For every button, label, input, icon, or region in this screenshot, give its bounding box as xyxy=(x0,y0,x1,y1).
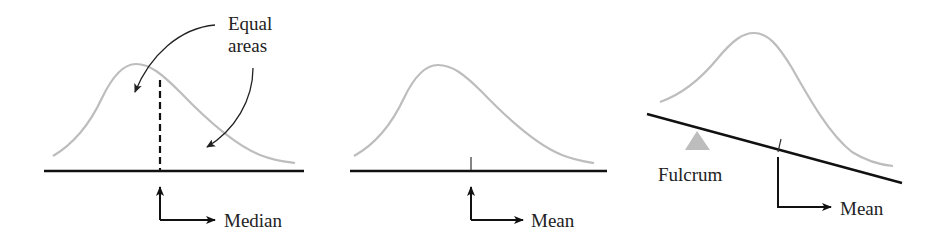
median-panel: Equal areas Median xyxy=(44,13,304,231)
median-label: Median xyxy=(224,210,283,231)
skewed-distribution-curve xyxy=(354,65,594,163)
fulcrum-triangle-icon xyxy=(685,131,710,150)
equal-areas-arrow-right xyxy=(207,68,253,147)
mean-label: Mean xyxy=(531,210,575,231)
equal-areas-label-line1: Equal xyxy=(228,13,272,34)
diagram-canvas: Equal areas Median Mean Fulcrum Mean xyxy=(0,0,943,236)
equal-areas-arrow-left xyxy=(135,25,215,92)
mean-pointer-arrow-right xyxy=(778,157,831,207)
fulcrum-panel: Fulcrum Mean xyxy=(647,33,902,219)
equal-areas-label-line2: areas xyxy=(228,35,267,56)
fulcrum-label: Fulcrum xyxy=(658,164,723,185)
mean-panel: Mean xyxy=(350,65,607,231)
mean-label: Mean xyxy=(840,198,884,219)
skewed-distribution-curve xyxy=(53,64,295,163)
